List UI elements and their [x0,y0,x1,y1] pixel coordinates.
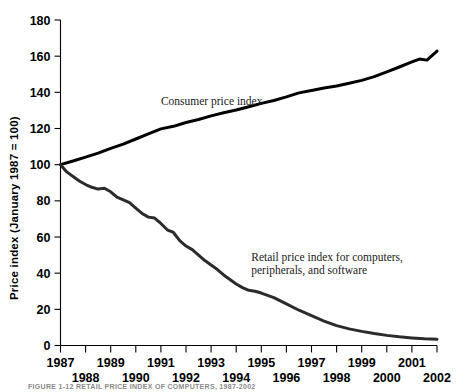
x-tick-label: 1999 [348,356,376,370]
y-axis-ticks [55,20,61,346]
x-tick-label: 2000 [373,371,401,385]
x-tick-label: 1987 [47,356,75,370]
y-tick-label: 120 [30,122,51,136]
annotation-group: Consumer price indexRetail price index f… [161,95,403,277]
y-tick-label: 160 [30,50,51,64]
x-tick-label: 1998 [323,371,351,385]
x-tick-label: 1991 [147,356,175,370]
price-index-line-chart: Price index (January 1987 = 100) 0204060… [0,0,472,392]
y-tick-label: 20 [37,303,51,317]
x-tick-label: 1996 [272,371,300,385]
x-axis-ticks [61,346,438,353]
y-tick-label: 40 [37,267,51,281]
retail-label: peripherals, and software [251,264,367,277]
y-tick-label: 100 [30,158,51,172]
y-axis-title: Price index (January 1987 = 100) [8,116,20,300]
x-tick-label: 1997 [298,356,326,370]
x-tick-label: 1995 [247,356,275,370]
series-line-cpi [61,51,438,165]
x-tick-label: 2001 [398,356,426,370]
figure-caption-text: FIGURE 1-12 RETAIL PRICE INDEX OF COMPUT… [28,383,256,391]
y-tick-label: 0 [44,339,51,353]
y-tick-label: 80 [37,194,51,208]
x-tick-label: 2002 [423,371,451,385]
figure-container: Price index (January 1987 = 100) 0204060… [0,0,472,392]
cpi-label: Consumer price index [161,95,263,108]
x-tick-label: 1989 [97,356,125,370]
y-axis-tick-labels: 020406080100120140160180 [30,14,51,354]
x-tick-label: 1993 [197,356,225,370]
figure-caption: FIGURE 1-12 RETAIL PRICE INDEX OF COMPUT… [28,383,256,391]
y-tick-label: 180 [30,14,51,28]
y-tick-label: 60 [37,231,51,245]
x-axis-tick-labels: 1987198819891990199119921993199419951996… [47,356,451,385]
y-tick-label: 140 [30,86,51,100]
axis-spines [61,20,438,346]
retail-label: Retail price index for computers, [251,251,403,264]
